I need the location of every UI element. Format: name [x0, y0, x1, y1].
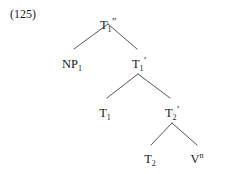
- tree-node-np1: NP1: [62, 57, 82, 71]
- node-label-base: NP: [62, 57, 78, 71]
- node-label-base: T: [100, 18, 108, 32]
- node-label-base: T: [99, 106, 107, 120]
- node-label-base: T: [165, 106, 173, 120]
- tree-node-t2: T2: [144, 152, 156, 166]
- syntax-tree-figure: (125) T1″ NP1 T1′ T1 T2′ T2 Vn: [0, 0, 227, 174]
- tree-node-vn: Vn: [190, 152, 203, 166]
- tree-node-t1: T1: [99, 106, 111, 120]
- node-label-base: V: [190, 152, 199, 166]
- tree-edge-tbar2-t2: [151, 123, 172, 145]
- node-label-prime: ″: [112, 15, 117, 27]
- tree-node-tbar1: T1′: [132, 57, 146, 71]
- node-label-subscript: 1: [107, 113, 111, 122]
- node-label-subscript: 1: [78, 64, 82, 73]
- node-label-base: T: [144, 152, 152, 166]
- node-label-subscript: 2: [152, 159, 156, 168]
- tree-edge-tbar1-t1: [107, 74, 138, 98]
- tree-edge-tbar2-vn: [172, 123, 197, 145]
- node-label-prime: ′: [177, 103, 179, 115]
- tree-node-tbar2: T2′: [165, 106, 179, 120]
- tree-edge-tbar1-tbar2: [138, 74, 170, 98]
- tree-node-root: T1″: [100, 18, 116, 32]
- node-label-base: T: [132, 57, 140, 71]
- node-label-superscript: n: [200, 151, 204, 160]
- node-label-prime: ′: [144, 54, 146, 66]
